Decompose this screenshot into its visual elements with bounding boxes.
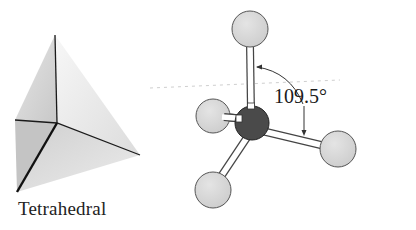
bond-right [262,131,325,146]
outer-atom-bottom-icon [195,172,231,208]
bond-angle-label: 109.5° [274,85,327,108]
outer-atom-right-icon [320,131,356,167]
outer-atom-top-icon [232,11,268,47]
ball-and-stick-model [195,11,356,208]
bond-bottom [220,133,250,178]
figure-canvas [0,0,416,230]
bond-top [250,45,251,112]
central-atom-icon [235,106,269,140]
geometry-caption: Tetrahedral [18,198,106,220]
tetrahedral-geometry-figure: 109.5° Tetrahedral [0,0,416,230]
tetrahedron-icon [15,35,140,192]
